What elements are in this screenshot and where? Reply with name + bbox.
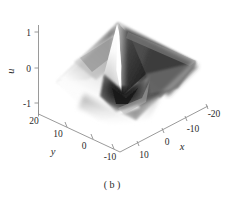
axis-vertical-u: 1 0 -1 u bbox=[5, 25, 39, 115]
u-axis-title: u bbox=[5, 68, 16, 73]
y-axis-title: y bbox=[50, 146, 56, 157]
x-axis-title: x bbox=[179, 141, 185, 152]
u-axis-tick-label-0: 0 bbox=[26, 64, 31, 74]
x-axis-tick-label-0: 0 bbox=[165, 137, 170, 147]
surface-peak-glow bbox=[110, 24, 128, 86]
figure-panel: 1 0 -1 u 20 10 0 -10 y 10 0 bbox=[0, 0, 228, 202]
u-axis-tick-label-minus1: -1 bbox=[23, 99, 31, 109]
x-axis-tick-label-minus20: -20 bbox=[208, 109, 221, 119]
y-axis-tick-label-0: 0 bbox=[82, 141, 87, 151]
u-axis-tick-label-1: 1 bbox=[26, 28, 31, 38]
x-axis-tick-label-10: 10 bbox=[139, 150, 149, 160]
x-axis-tick-label-minus10: -10 bbox=[187, 124, 200, 134]
surface-plot-3d: 1 0 -1 u 20 10 0 -10 y 10 0 bbox=[0, 0, 228, 202]
y-axis-tick-label-10: 10 bbox=[53, 129, 63, 139]
figure-caption: ( b ) bbox=[104, 179, 121, 191]
y-axis-tick-label-20: 20 bbox=[29, 116, 39, 126]
surface-mesh bbox=[56, 22, 198, 126]
y-axis-tick-label-minus10: -10 bbox=[104, 152, 117, 162]
